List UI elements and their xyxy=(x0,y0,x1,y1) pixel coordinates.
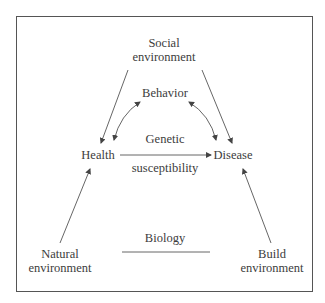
arrow-social-to-health xyxy=(101,70,128,143)
node-build-line2: environment xyxy=(240,261,303,276)
arrow-social-to-disease xyxy=(202,70,232,143)
node-susceptibility: susceptibility xyxy=(132,161,199,176)
node-build-line1: Build xyxy=(258,247,286,262)
node-biology: Biology xyxy=(145,231,185,246)
node-health: Health xyxy=(81,148,114,163)
node-social-line2: environment xyxy=(132,50,195,65)
node-natural-line1: Natural xyxy=(41,247,78,262)
arrow-build-to-disease xyxy=(243,169,271,243)
arrow-behavior-disease xyxy=(189,102,216,140)
node-genetic: Genetic xyxy=(146,132,185,147)
node-natural-line2: environment xyxy=(28,261,91,276)
arrow-natural-to-health xyxy=(60,169,90,243)
node-social-line1: Social xyxy=(148,36,179,51)
node-behavior: Behavior xyxy=(142,86,188,101)
node-disease: Disease xyxy=(214,148,253,163)
arrow-behavior-health xyxy=(114,102,140,140)
